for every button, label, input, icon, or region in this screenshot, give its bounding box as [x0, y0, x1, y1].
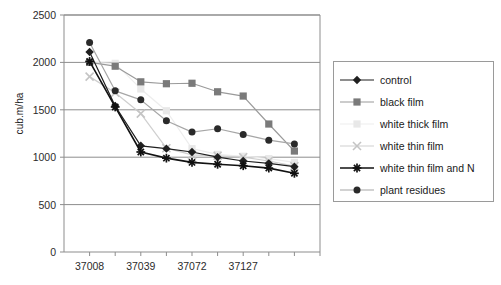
data-point	[189, 129, 196, 136]
data-point	[163, 107, 170, 114]
data-point	[188, 158, 197, 167]
legend-marker	[353, 76, 361, 84]
legend-item-white-thick-film[interactable]: white thick film	[334, 113, 495, 135]
data-point	[162, 154, 171, 163]
legend-marker-asterisk-icon	[334, 159, 380, 177]
legend-marker	[354, 187, 361, 194]
data-point	[86, 73, 94, 81]
legend-label: plant residues	[380, 185, 445, 196]
legend-item-white-thin-film[interactable]: white thin film	[334, 135, 495, 157]
legend-label: white thin film and N	[380, 163, 475, 174]
data-point	[163, 80, 170, 87]
series-line	[90, 61, 295, 173]
data-point	[112, 63, 119, 70]
legend-item-control[interactable]: control	[334, 69, 495, 91]
data-point	[137, 110, 145, 118]
data-point	[239, 161, 248, 170]
legend-item-black-film[interactable]: black film	[334, 91, 495, 113]
data-point	[86, 39, 93, 46]
data-point	[163, 117, 170, 124]
data-point	[136, 148, 145, 157]
data-point	[240, 92, 247, 99]
data-point	[265, 120, 272, 127]
series-plant-residues	[86, 39, 298, 147]
chart-legend: controlblack filmwhite thick filmwhite t…	[333, 61, 494, 202]
data-point	[111, 103, 120, 112]
legend-marker	[353, 164, 362, 173]
legend-marker-square-light-icon	[334, 115, 380, 133]
data-point	[137, 85, 144, 92]
series-line	[90, 62, 295, 151]
legend-label: white thin film	[380, 141, 444, 152]
legend-label: control	[380, 75, 412, 86]
legend-marker-square-icon	[334, 93, 380, 111]
legend-marker	[353, 120, 360, 127]
data-point	[290, 169, 299, 178]
legend-marker-circle-icon	[334, 181, 380, 199]
data-point	[213, 160, 222, 169]
legend-label: white thick film	[380, 119, 448, 130]
data-point	[291, 147, 298, 154]
data-point	[291, 140, 298, 147]
data-point	[188, 80, 195, 87]
legend-marker	[353, 98, 360, 105]
data-point	[85, 57, 94, 66]
data-point	[214, 88, 221, 95]
gridlines	[64, 15, 320, 205]
legend-item-white-thin-film-and-n[interactable]: white thin film and N	[334, 157, 495, 179]
data-point	[240, 131, 247, 138]
data-point	[137, 96, 144, 103]
data-point	[265, 137, 272, 144]
chart-container: cub.m/ha 05001000150020002500 3700837039…	[0, 0, 501, 285]
legend-marker-diamond-icon	[334, 71, 380, 89]
data-point	[214, 125, 221, 132]
axis-ticks	[60, 15, 320, 256]
data-point	[137, 78, 144, 85]
legend-item-plant-residues[interactable]: plant residues	[334, 179, 495, 201]
legend-marker-x-icon	[334, 137, 380, 155]
data-point	[264, 164, 273, 173]
data-point	[112, 87, 119, 94]
legend-label: black film	[380, 97, 424, 108]
